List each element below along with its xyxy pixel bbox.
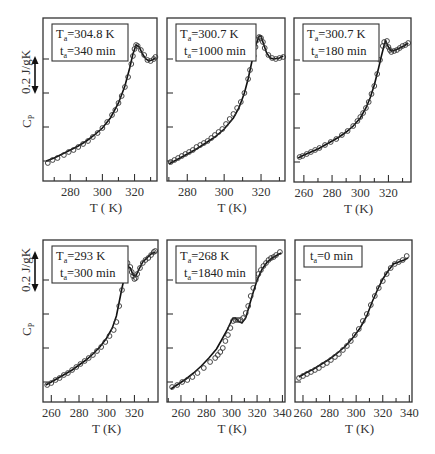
- x-tick-label: 300: [93, 185, 112, 199]
- data-point: [220, 346, 225, 351]
- x-tick-label: 300: [347, 406, 366, 420]
- x-axis-label: T (K): [217, 421, 246, 436]
- x-tick-label: 300: [97, 406, 116, 420]
- y-scale-label-top: 0.2 J/gK: [18, 49, 33, 94]
- legend-text: ta=300 min: [60, 266, 116, 282]
- legend-text: ta=180 min: [311, 44, 367, 60]
- x-axis-label: T ( K): [90, 200, 122, 215]
- legend-text: Ta=293 K: [56, 249, 105, 265]
- x-tick-label: 280: [320, 406, 339, 420]
- data-point: [208, 360, 213, 365]
- legend-text: Ta=268 K: [180, 249, 229, 265]
- x-tick-label: 260: [172, 406, 191, 420]
- x-ticks: 260280300320: [42, 395, 148, 420]
- legend-text: ta=0 min: [310, 249, 354, 265]
- x-tick-label: 280: [178, 185, 197, 199]
- x-tick-label: 300: [351, 186, 370, 200]
- panel-1: 280300320T ( K)Ta=304.8 Kta=340 min: [43, 18, 158, 215]
- legend-text: ta=340 min: [60, 44, 116, 60]
- panel-5: 260280300320340T (K)Ta=268 Kta=1840 min: [167, 240, 292, 436]
- x-tick-label: 280: [197, 406, 216, 420]
- data-point: [213, 356, 218, 361]
- panel-6: 260280300320340T (K)ta=0 min: [294, 240, 419, 436]
- x-tick-label: 300: [215, 185, 234, 199]
- legend: Ta=293 Kta=300 min: [52, 246, 128, 283]
- data-points: [297, 254, 410, 381]
- x-tick-label: 320: [373, 406, 392, 420]
- panel-4: 260280300320T (K)Ta=293 Kta=300 min: [42, 240, 158, 436]
- y-ticks: [167, 280, 173, 382]
- figure-canvas: 280300320T ( K)Ta=304.8 Kta=340 min28030…: [0, 0, 435, 454]
- y-ticks: [167, 59, 173, 161]
- y-axis-label-top: CP: [19, 114, 36, 128]
- panel-2: 280300320T (K)Ta=300.7 Kta=1000 min: [167, 18, 286, 215]
- svg-text:CP: CP: [19, 322, 36, 336]
- x-axis-label: T (K): [344, 201, 373, 216]
- y-ticks: [43, 59, 49, 161]
- legend-text: ta=1000 min: [184, 44, 246, 60]
- x-ticks: 280300320: [54, 174, 150, 199]
- x-tick-label: 340: [400, 406, 419, 420]
- x-axis-label: T (K): [92, 421, 121, 436]
- fit-curve: [46, 45, 155, 161]
- legend-text: ta=1840 min: [184, 266, 246, 282]
- x-ticks: 260280300320340: [294, 395, 419, 420]
- data-point: [404, 254, 409, 259]
- x-tick-label: 260: [42, 406, 61, 420]
- x-tick-label: 340: [273, 406, 292, 420]
- x-tick-label: 320: [125, 406, 144, 420]
- data-point: [195, 371, 200, 376]
- legend: Ta=268 Kta=1840 min: [176, 246, 256, 283]
- legend: Ta=304.8 Kta=340 min: [52, 24, 128, 61]
- x-tick-label: 320: [379, 186, 398, 200]
- legend: ta=0 min: [304, 246, 362, 267]
- x-tick-label: 280: [61, 185, 80, 199]
- y-scale-label-bottom: 0.2 J/gK: [18, 247, 33, 292]
- y-ticks: [295, 280, 301, 382]
- data-point: [190, 375, 195, 380]
- fit-curve: [299, 258, 408, 377]
- x-tick-label: 320: [252, 185, 271, 199]
- x-tick-label: 260: [294, 406, 313, 420]
- x-tick-label: 320: [125, 185, 144, 199]
- panel-3: 260280300320T (K)Ta=300.7 Kta=180 min: [294, 18, 411, 216]
- x-tick-label: 300: [222, 406, 241, 420]
- legend: Ta=300.7 Kta=1000 min: [176, 24, 256, 61]
- x-ticks: 260280300320: [294, 175, 402, 200]
- panels: 280300320T ( K)Ta=304.8 Kta=340 min28030…: [42, 18, 419, 436]
- data-point: [226, 333, 231, 338]
- x-axis-label: T (K): [345, 421, 374, 436]
- x-tick-label: 280: [323, 186, 342, 200]
- data-point: [223, 339, 228, 344]
- y-ticks: [294, 60, 300, 162]
- x-tick-label: 260: [294, 186, 313, 200]
- legend: Ta=300.7 Kta=180 min: [303, 24, 379, 61]
- data-point: [227, 117, 232, 122]
- x-ticks: 280300320: [169, 174, 280, 199]
- y-ticks: [43, 280, 49, 382]
- x-ticks: 260280300320340: [168, 395, 292, 420]
- x-tick-label: 320: [248, 406, 267, 420]
- x-axis-label: T (K): [217, 200, 246, 215]
- x-tick-label: 280: [70, 406, 89, 420]
- y-axis-label-bottom: CP: [19, 322, 36, 336]
- svg-text:CP: CP: [19, 114, 36, 128]
- data-point: [201, 366, 206, 371]
